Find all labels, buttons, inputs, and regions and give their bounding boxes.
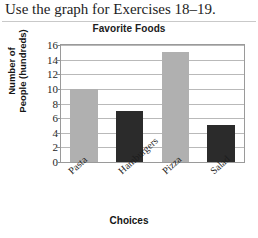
y-axis-tick-label: 4 — [36, 128, 58, 139]
page-title: Use the graph for Exercises 18–19. — [5, 1, 253, 18]
y-axis-tick-labels: 1614121086420 — [34, 44, 58, 163]
y-axis-title: Number of People (hundreds) — [6, 19, 28, 123]
horizontal-divider — [2, 21, 256, 22]
y-axis-tick-label: 10 — [36, 84, 58, 95]
y-axis-tick-label: 2 — [36, 142, 58, 153]
bar-pasta — [70, 89, 97, 162]
x-axis-title: Choices — [0, 215, 258, 226]
y-axis-tick-label: 6 — [36, 113, 58, 124]
gridline — [61, 45, 244, 46]
y-axis-tick-label: 12 — [36, 69, 58, 80]
y-axis-tick-label: 14 — [36, 55, 58, 66]
y-axis-tick-label: 16 — [36, 40, 58, 51]
y-axis-tick-label: 0 — [36, 157, 58, 168]
bar-pizza — [162, 52, 189, 162]
y-axis-title-line-2: People (hundreds) — [17, 19, 28, 123]
gridline — [61, 60, 244, 61]
y-axis-title-line-1: Number of — [6, 19, 17, 123]
gridline — [61, 74, 244, 75]
chart-title: Favorite Foods — [0, 23, 258, 34]
x-axis-tick-labels: PastaHamburgersPizzaSalad — [0, 168, 258, 216]
y-axis-tick-label: 8 — [36, 99, 58, 110]
